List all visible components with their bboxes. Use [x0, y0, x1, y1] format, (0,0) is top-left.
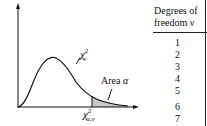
critical-label-sub: α,ν — [86, 115, 95, 123]
y-axis-arrow-icon — [16, 3, 20, 9]
critical-value-label: χ2α,ν — [83, 108, 95, 123]
table-row: 3 — [150, 62, 205, 72]
column-divider — [205, 0, 206, 126]
table-row: 6 — [150, 102, 205, 112]
area-label-text: Area — [101, 75, 123, 86]
table-row: 1 — [150, 38, 205, 48]
table-header-line2: freedom ν — [154, 17, 198, 29]
x-axis-arrow-icon — [133, 105, 139, 109]
table-header: Degrees of freedom ν — [154, 5, 198, 29]
chi-square-diagram: χ2ν Area α χ2α,ν — [0, 0, 140, 126]
table-row: 4 — [150, 74, 205, 84]
table-header-line1: Degrees of — [154, 5, 198, 17]
area-label: Area α — [101, 76, 128, 86]
critical-label-sup: 2 — [88, 107, 92, 115]
degrees-of-freedom-table: Degrees of freedom ν 1 2 3 4 5 6 7 — [150, 0, 207, 126]
table-row: 5 — [150, 86, 205, 96]
table-row: 2 — [150, 50, 205, 60]
curve-label-sub: ν — [83, 55, 86, 63]
header-divider — [153, 32, 207, 33]
curve-label: χ2ν — [80, 48, 86, 63]
chi-square-plot — [0, 0, 140, 126]
area-label-leader — [108, 89, 112, 100]
table-row: 7 — [150, 114, 205, 124]
curve-label-sup: 2 — [85, 47, 89, 55]
area-label-symbol: α — [123, 75, 128, 86]
